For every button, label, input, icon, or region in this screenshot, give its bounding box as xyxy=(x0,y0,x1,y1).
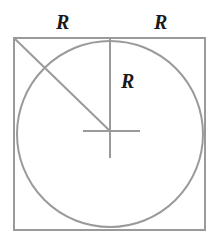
geometry-diagram xyxy=(0,0,219,241)
label-r-top-right: R xyxy=(154,12,167,32)
label-r-top-left: R xyxy=(56,12,69,32)
geometry-figure: R R R xyxy=(0,0,219,241)
label-r-radius: R xyxy=(121,71,134,91)
diagonal-line xyxy=(14,38,110,131)
